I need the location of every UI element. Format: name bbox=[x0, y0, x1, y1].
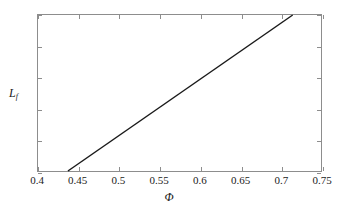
y-tick-mark-right bbox=[317, 110, 321, 111]
x-tick-mark bbox=[119, 167, 120, 171]
x-tick-mark-top bbox=[323, 15, 324, 19]
x-tick-label: 0.55 bbox=[150, 174, 169, 186]
x-tick-label: 0.75 bbox=[312, 174, 331, 186]
x-tick-mark-top bbox=[282, 15, 283, 19]
x-tick-mark bbox=[160, 167, 161, 171]
x-tick-mark-top bbox=[242, 15, 243, 19]
y-tick-mark bbox=[38, 78, 42, 79]
y-tick-mark-right bbox=[317, 47, 321, 48]
x-tick-mark bbox=[201, 167, 202, 171]
x-tick-label: 0.4 bbox=[30, 174, 44, 186]
x-tick-label: 0.45 bbox=[68, 174, 87, 186]
data-series-line bbox=[68, 15, 293, 171]
y-axis-title-subscript: f bbox=[16, 92, 18, 101]
x-tick-mark bbox=[38, 167, 39, 171]
x-tick-mark bbox=[323, 167, 324, 171]
y-axis-title-main: L bbox=[9, 86, 16, 100]
x-tick-label: 0.5 bbox=[112, 174, 126, 186]
x-tick-label: 0.7 bbox=[274, 174, 288, 186]
y-tick-mark bbox=[38, 47, 42, 48]
x-tick-mark-top bbox=[160, 15, 161, 19]
data-line-layer bbox=[38, 15, 321, 171]
plot-area bbox=[37, 14, 322, 172]
y-axis-title: Lf bbox=[9, 86, 18, 101]
y-tick-mark bbox=[38, 15, 42, 16]
y-tick-mark-right bbox=[317, 15, 321, 16]
x-tick-label: 0.65 bbox=[231, 174, 250, 186]
y-tick-mark bbox=[38, 141, 42, 142]
x-tick-label: 0.6 bbox=[193, 174, 207, 186]
x-tick-mark bbox=[79, 167, 80, 171]
x-axis-title: Φ bbox=[0, 190, 338, 205]
x-tick-mark-top bbox=[119, 15, 120, 19]
x-tick-mark bbox=[242, 167, 243, 171]
y-tick-mark bbox=[38, 110, 42, 111]
chart-figure: Lf Φ 0.40.450.50.550.60.650.70.7500.20.4… bbox=[0, 0, 338, 213]
y-tick-mark-right bbox=[317, 78, 321, 79]
y-tick-mark-right bbox=[317, 141, 321, 142]
x-tick-mark-top bbox=[201, 15, 202, 19]
x-tick-mark bbox=[282, 167, 283, 171]
x-tick-mark-top bbox=[79, 15, 80, 19]
